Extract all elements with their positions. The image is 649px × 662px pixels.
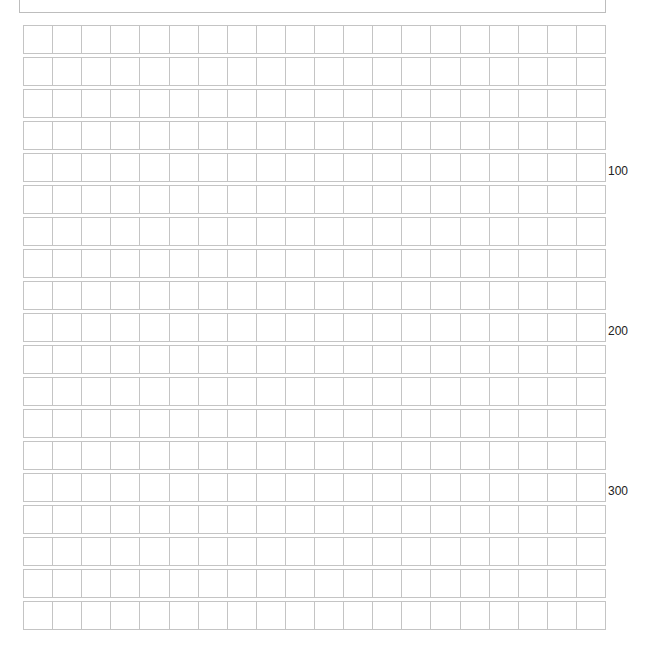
grid-cell[interactable]	[344, 122, 373, 149]
grid-cell[interactable]	[315, 410, 344, 437]
grid-cell[interactable]	[490, 346, 519, 373]
grid-cell[interactable]	[53, 410, 82, 437]
grid-cell[interactable]	[286, 314, 315, 341]
grid-cell[interactable]	[402, 474, 431, 501]
grid-cell[interactable]	[82, 122, 111, 149]
grid-cell[interactable]	[519, 410, 548, 437]
grid-cell[interactable]	[53, 538, 82, 565]
grid-cell[interactable]	[402, 218, 431, 245]
grid-cell[interactable]	[344, 154, 373, 181]
grid-cell[interactable]	[490, 282, 519, 309]
grid-cell[interactable]	[344, 378, 373, 405]
grid-cell[interactable]	[461, 538, 490, 565]
grid-cell[interactable]	[519, 26, 548, 53]
grid-cell[interactable]	[402, 538, 431, 565]
grid-cell[interactable]	[286, 442, 315, 469]
grid-cell[interactable]	[228, 26, 257, 53]
grid-cell[interactable]	[461, 410, 490, 437]
grid-cell[interactable]	[257, 570, 286, 597]
grid-cell[interactable]	[170, 154, 199, 181]
grid-cell[interactable]	[53, 90, 82, 117]
grid-cell[interactable]	[140, 186, 169, 213]
grid-cell[interactable]	[228, 346, 257, 373]
grid-cell[interactable]	[490, 218, 519, 245]
grid-cell[interactable]	[373, 186, 402, 213]
grid-cell[interactable]	[140, 538, 169, 565]
grid-cell[interactable]	[199, 186, 228, 213]
grid-cell[interactable]	[82, 186, 111, 213]
grid-cell[interactable]	[490, 474, 519, 501]
grid-cell[interactable]	[344, 442, 373, 469]
grid-cell[interactable]	[373, 506, 402, 533]
grid-cell[interactable]	[257, 314, 286, 341]
grid-cell[interactable]	[170, 250, 199, 277]
grid-cell[interactable]	[461, 122, 490, 149]
grid-cell[interactable]	[140, 570, 169, 597]
grid-cell[interactable]	[82, 570, 111, 597]
grid-cell[interactable]	[257, 378, 286, 405]
grid-cell[interactable]	[431, 58, 460, 85]
grid-cell[interactable]	[199, 506, 228, 533]
grid-cell[interactable]	[286, 218, 315, 245]
grid-cell[interactable]	[402, 570, 431, 597]
grid-cell[interactable]	[199, 538, 228, 565]
grid-cell[interactable]	[315, 314, 344, 341]
grid-cell[interactable]	[490, 442, 519, 469]
grid-cell[interactable]	[402, 410, 431, 437]
grid-cell[interactable]	[228, 474, 257, 501]
grid-cell[interactable]	[519, 122, 548, 149]
grid-cell[interactable]	[373, 122, 402, 149]
grid-cell[interactable]	[431, 26, 460, 53]
grid-cell[interactable]	[257, 250, 286, 277]
grid-cell[interactable]	[228, 186, 257, 213]
grid-cell[interactable]	[170, 442, 199, 469]
grid-cell[interactable]	[140, 26, 169, 53]
grid-cell[interactable]	[373, 346, 402, 373]
grid-cell[interactable]	[257, 442, 286, 469]
grid-cell[interactable]	[315, 378, 344, 405]
grid-cell[interactable]	[548, 250, 577, 277]
grid-cell[interactable]	[373, 218, 402, 245]
grid-cell[interactable]	[111, 90, 140, 117]
grid-cell[interactable]	[82, 314, 111, 341]
grid-cell[interactable]	[431, 442, 460, 469]
grid-cell[interactable]	[577, 90, 606, 117]
grid-cell[interactable]	[431, 538, 460, 565]
grid-cell[interactable]	[199, 442, 228, 469]
grid-cell[interactable]	[286, 282, 315, 309]
grid-cell[interactable]	[53, 570, 82, 597]
grid-cell[interactable]	[170, 218, 199, 245]
grid-cell[interactable]	[344, 346, 373, 373]
grid-cell[interactable]	[140, 58, 169, 85]
grid-cell[interactable]	[315, 186, 344, 213]
grid-cell[interactable]	[519, 154, 548, 181]
grid-cell[interactable]	[402, 442, 431, 469]
grid-cell[interactable]	[170, 506, 199, 533]
grid-cell[interactable]	[111, 570, 140, 597]
grid-cell[interactable]	[228, 122, 257, 149]
grid-cell[interactable]	[170, 186, 199, 213]
grid-cell[interactable]	[577, 410, 606, 437]
grid-cell[interactable]	[315, 58, 344, 85]
grid-cell[interactable]	[286, 474, 315, 501]
grid-cell[interactable]	[24, 506, 53, 533]
grid-cell[interactable]	[344, 186, 373, 213]
grid-cell[interactable]	[140, 314, 169, 341]
grid-cell[interactable]	[315, 154, 344, 181]
grid-cell[interactable]	[344, 90, 373, 117]
grid-cell[interactable]	[82, 506, 111, 533]
grid-cell[interactable]	[82, 346, 111, 373]
grid-cell[interactable]	[111, 410, 140, 437]
grid-cell[interactable]	[111, 602, 140, 629]
grid-cell[interactable]	[111, 442, 140, 469]
grid-cell[interactable]	[199, 378, 228, 405]
grid-cell[interactable]	[82, 250, 111, 277]
grid-cell[interactable]	[24, 90, 53, 117]
grid-cell[interactable]	[199, 474, 228, 501]
grid-cell[interactable]	[548, 474, 577, 501]
grid-cell[interactable]	[431, 570, 460, 597]
grid-cell[interactable]	[461, 250, 490, 277]
grid-cell[interactable]	[170, 314, 199, 341]
grid-cell[interactable]	[53, 602, 82, 629]
grid-cell[interactable]	[170, 602, 199, 629]
